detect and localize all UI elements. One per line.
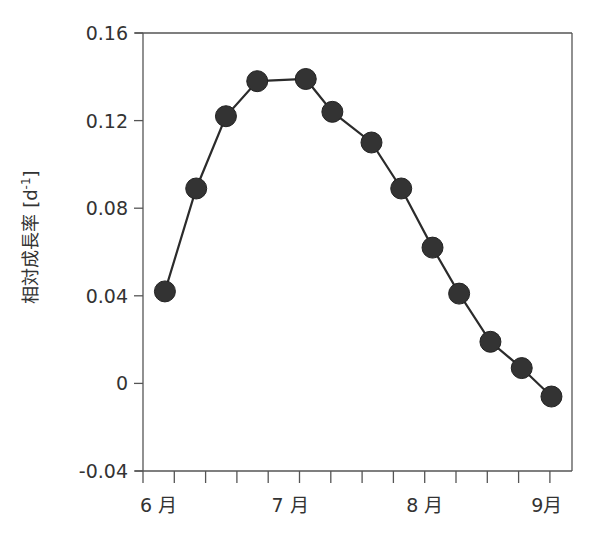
data-point-marker: [154, 281, 175, 302]
y-tick-label: 0.04: [86, 285, 128, 307]
data-point-marker: [511, 358, 532, 379]
x-tick-label: 7 月: [272, 494, 309, 516]
y-axis-ticks: -0.0400.040.080.120.16: [79, 22, 143, 482]
data-point-marker: [186, 178, 207, 199]
data-point-marker: [215, 106, 236, 127]
y-tick-label: 0: [116, 372, 128, 394]
data-point-marker: [541, 386, 562, 407]
data-point-marker: [480, 331, 501, 352]
y-axis-title: 相対成長率 [d-1]: [19, 170, 41, 303]
data-point-marker: [247, 71, 268, 92]
data-point-marker: [449, 283, 470, 304]
data-point-marker: [391, 178, 412, 199]
y-tick-label: -0.04: [79, 460, 128, 482]
data-point-marker: [422, 237, 443, 258]
plot-frame: [135, 33, 572, 471]
data-point-marker: [361, 132, 382, 153]
y-tick-label: 0.16: [86, 22, 128, 44]
x-tick-label: 6 月: [140, 494, 177, 516]
x-axis-ticks: 6 月7 月8 月9月: [140, 471, 562, 516]
y-tick-label: 0.08: [86, 197, 128, 219]
relative-growth-rate-chart: -0.0400.040.080.120.16 6 月7 月8 月9月 相対成長率…: [0, 0, 612, 536]
data-series: [154, 68, 562, 407]
data-point-marker: [295, 68, 316, 89]
y-tick-label: 0.12: [86, 110, 128, 132]
x-tick-label: 8 月: [406, 494, 443, 516]
data-point-marker: [322, 101, 343, 122]
x-tick-label: 9月: [531, 494, 562, 516]
